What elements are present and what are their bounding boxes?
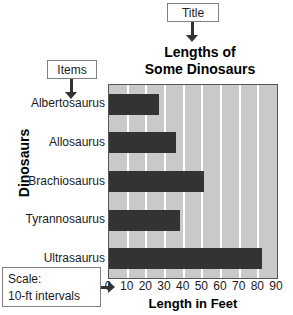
- category-label: Tyrannosaurus: [1, 212, 105, 226]
- bar: [109, 171, 204, 192]
- callout-items-label: Items: [57, 63, 86, 77]
- category-label-group: AlbertosaurusAllosaurusBrachiosaurusTyra…: [0, 84, 105, 277]
- bar: [109, 210, 180, 231]
- callout-scale-line-1: Scale:: [8, 271, 95, 288]
- callout-title-label: Title: [182, 6, 204, 20]
- x-axis-tick-label: 80: [247, 279, 267, 293]
- x-axis-tick-label: 10: [117, 279, 137, 293]
- category-label: Allosaurus: [1, 135, 105, 149]
- callout-box-items: Items: [47, 60, 97, 79]
- arrow-shaft: [191, 22, 194, 35]
- category-label: Ultrasaurus: [1, 251, 105, 265]
- x-axis-tick-label: 90: [266, 279, 286, 293]
- arrow-down-icon-title: [186, 22, 199, 42]
- arrow-right-icon-scale: [101, 281, 115, 294]
- x-axis-tick-label: 30: [154, 279, 174, 293]
- arrow-head: [108, 281, 115, 293]
- plot-area: [108, 84, 278, 279]
- chart-title-line-2: Some Dinosaurs: [120, 61, 280, 78]
- callout-box-title: Title: [167, 3, 219, 22]
- x-axis-tick-label: 40: [173, 279, 193, 293]
- x-axis-tick-group: 0102030405060708090: [108, 279, 278, 294]
- x-axis-title: Length in Feet: [108, 296, 278, 311]
- chart-title: Lengths of Some Dinosaurs: [120, 44, 280, 78]
- category-label: Brachiosaurus: [1, 174, 105, 188]
- x-axis-tick-label: 20: [135, 279, 155, 293]
- x-axis-tick-label: 70: [229, 279, 249, 293]
- category-label: Albertosaurus: [1, 96, 105, 110]
- chart-title-line-1: Lengths of: [120, 44, 280, 61]
- arrow-head: [186, 35, 198, 42]
- callout-box-scale: Scale: 10-ft intervals: [2, 267, 101, 307]
- bar: [109, 94, 159, 115]
- bar: [109, 132, 176, 153]
- bar: [109, 248, 262, 269]
- x-axis-tick-label: 60: [210, 279, 230, 293]
- callout-scale-line-2: 10-ft intervals: [8, 288, 95, 305]
- x-axis-tick-label: 50: [191, 279, 211, 293]
